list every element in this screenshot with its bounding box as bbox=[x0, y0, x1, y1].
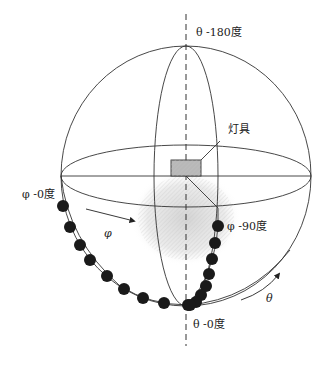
theta-180-label: θ -180度 bbox=[196, 25, 242, 39]
measurement-point bbox=[212, 220, 224, 232]
luminaire-label: 灯具 bbox=[228, 123, 250, 136]
measurement-point bbox=[118, 283, 130, 295]
measurement-point bbox=[209, 237, 221, 249]
phi-symbol-label: φ bbox=[104, 227, 112, 240]
measurement-point bbox=[184, 299, 196, 311]
measurement-point bbox=[57, 200, 69, 212]
phi-0-label: φ -0度 bbox=[22, 187, 55, 201]
theta-0-label: θ -0度 bbox=[193, 317, 225, 331]
measurement-point bbox=[137, 292, 149, 304]
measurement-point bbox=[74, 239, 86, 251]
phi-direction-arrow bbox=[86, 209, 134, 221]
theta-symbol-label: θ bbox=[266, 292, 273, 305]
measurement-point bbox=[84, 254, 96, 266]
measurement-point bbox=[203, 268, 215, 280]
phi-90-label: φ -90度 bbox=[227, 219, 267, 233]
theta-direction-arrow bbox=[241, 274, 279, 300]
measurement-point bbox=[158, 297, 170, 309]
measurement-point bbox=[206, 253, 218, 265]
goniophotometer-sphere-diagram: θ -180度 θ -0度 φ -0度 φ -90度 灯具 φ θ bbox=[0, 0, 328, 366]
measurement-point bbox=[64, 221, 76, 233]
measurement-point bbox=[101, 270, 113, 282]
